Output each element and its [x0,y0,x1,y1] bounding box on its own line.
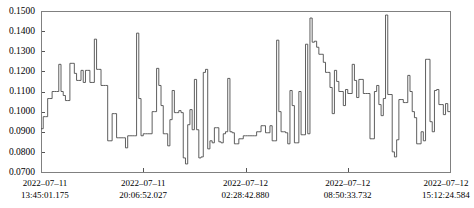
y-tick-label: 0.1400 [9,26,35,36]
y-axis-tick-marks [41,12,45,173]
x-axis-tick-marks [42,168,451,172]
y-tick-label: 0.1000 [9,106,35,116]
time-series-chart: 0.07000.08000.09000.10000.11000.12000.13… [0,0,474,208]
x-tick-label-date: 2022–07–12 [223,178,268,188]
chart-svg: 0.07000.08000.09000.10000.11000.12000.13… [0,0,474,208]
data-series-line [41,15,450,164]
x-tick-label-time: 15:12:24.584 [422,190,470,200]
x-tick-label-time: 02:28:42.880 [222,190,270,200]
x-tick-label-date: 2022–07–11 [23,178,68,188]
y-tick-label: 0.0800 [9,147,35,157]
x-tick-label-time: 13:45:01.175 [21,190,69,200]
y-tick-label: 0.1200 [9,66,35,76]
y-tick-label: 0.1100 [9,86,35,96]
y-tick-label: 0.0900 [9,126,35,136]
plot-frame [41,11,450,172]
x-tick-label-date: 2022–07–12 [424,178,469,188]
x-tick-label-time: 20:06:52.027 [119,190,167,200]
x-axis-tick-labels: 2022–07–1113:45:01.1752022–07–1120:06:52… [21,178,470,200]
x-tick-label-time: 08:50:33.732 [324,190,372,200]
y-tick-label: 0.0700 [9,167,35,177]
x-tick-label-date: 2022–07–11 [121,178,166,188]
y-axis-tick-labels: 0.07000.08000.09000.10000.11000.12000.13… [9,6,35,177]
x-tick-label-date: 2022–07–12 [325,178,370,188]
y-tick-label: 0.1500 [9,6,35,16]
y-tick-label: 0.1300 [9,46,35,56]
